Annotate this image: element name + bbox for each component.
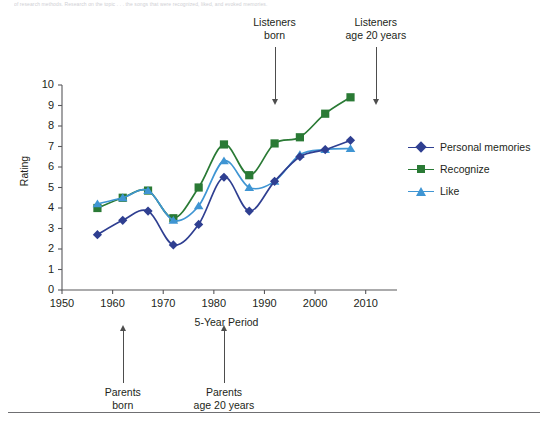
x-tick-1980: 1980 bbox=[194, 298, 234, 309]
data-point-square bbox=[296, 133, 304, 141]
diamond-marker-icon bbox=[408, 141, 434, 153]
data-point-square bbox=[270, 139, 278, 147]
data-point-square bbox=[245, 171, 253, 179]
y-tick-8: 8 bbox=[36, 120, 54, 131]
y-tick-9: 9 bbox=[36, 100, 54, 111]
x-tick-2000: 2000 bbox=[295, 298, 335, 309]
triangle-marker-icon bbox=[408, 185, 434, 197]
legend-item-personal-memories[interactable]: Personal memories bbox=[408, 136, 530, 158]
data-point-diamond bbox=[118, 216, 127, 225]
x-tick-2010: 2010 bbox=[346, 298, 386, 309]
annotation-line: Parents bbox=[154, 386, 294, 399]
annotation-bottom-1: Parentsage 20 years bbox=[154, 386, 294, 411]
y-axis-title: Rating bbox=[18, 141, 30, 201]
arrow-up-icon bbox=[224, 331, 225, 383]
data-point-square bbox=[346, 93, 354, 101]
legend-label: Recognize bbox=[440, 163, 490, 175]
data-point-diamond bbox=[93, 230, 102, 239]
annotation-line: age 20 years bbox=[154, 399, 294, 412]
y-tick-5: 5 bbox=[36, 182, 54, 193]
x-tick-1960: 1960 bbox=[93, 298, 133, 309]
x-tick-1990: 1990 bbox=[244, 298, 284, 309]
line-chart-plot bbox=[0, 0, 548, 426]
chart-page: of research methods. Research on the top… bbox=[0, 0, 548, 426]
x-tick-1950: 1950 bbox=[42, 298, 82, 309]
legend-label: Like bbox=[440, 185, 459, 197]
data-point-square bbox=[195, 183, 203, 191]
y-tick-4: 4 bbox=[36, 202, 54, 213]
legend-item-like[interactable]: Like bbox=[408, 180, 530, 202]
square-marker-icon bbox=[408, 163, 434, 175]
y-tick-2: 2 bbox=[36, 243, 54, 254]
chart-legend: Personal memoriesRecognizeLike bbox=[408, 136, 530, 202]
footer-divider bbox=[8, 412, 540, 413]
y-tick-1: 1 bbox=[36, 264, 54, 275]
y-tick-7: 7 bbox=[36, 141, 54, 152]
legend-item-recognize[interactable]: Recognize bbox=[408, 158, 530, 180]
data-point-diamond bbox=[346, 136, 355, 145]
legend-label: Personal memories bbox=[440, 141, 530, 153]
y-tick-6: 6 bbox=[36, 161, 54, 172]
series-like bbox=[93, 144, 356, 224]
y-tick-0: 0 bbox=[36, 284, 54, 295]
arrow-up-icon bbox=[123, 331, 124, 383]
data-point-square bbox=[220, 140, 228, 148]
data-point-triangle bbox=[194, 202, 204, 210]
data-point-square bbox=[321, 110, 329, 118]
y-tick-10: 10 bbox=[36, 79, 54, 90]
y-tick-3: 3 bbox=[36, 223, 54, 234]
x-tick-1970: 1970 bbox=[143, 298, 183, 309]
